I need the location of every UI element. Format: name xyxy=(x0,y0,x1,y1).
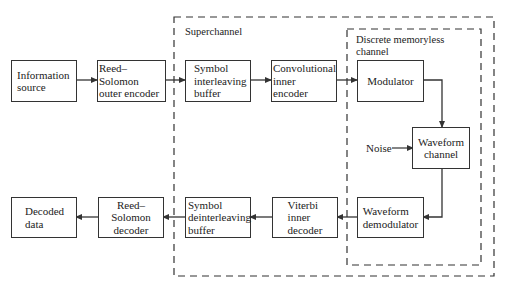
block-symbol-interleaving-buffer: Symbol interleaving buffer xyxy=(185,60,251,102)
block-modulator: Modulator xyxy=(357,60,424,102)
block-waveform-channel-label: Waveform channel xyxy=(418,136,464,161)
block-symbol-deinterleaving-buffer-label: Symbol deinterleaving buffer xyxy=(188,199,251,237)
block-rs-outer-encoder-label: Reed–Solomon outer encoder xyxy=(99,62,165,100)
block-viterbi-inner-decoder: Viterbi inner decoder xyxy=(272,197,338,238)
block-waveform-demodulator: Waveform demodulator xyxy=(357,197,424,238)
block-symbol-interleaving-buffer-label: Symbol interleaving buffer xyxy=(194,62,247,100)
block-information-source-label: Information source xyxy=(17,69,70,94)
noise-label: Noise xyxy=(366,142,392,154)
block-waveform-demodulator-label: Waveform demodulator xyxy=(363,205,419,230)
dmc-label: Discrete memoryless channel xyxy=(356,34,444,58)
block-information-source: Information source xyxy=(11,60,77,102)
arrow-channel-to-demodulator xyxy=(423,168,442,217)
block-waveform-channel: Waveform channel xyxy=(412,127,470,169)
block-decoded-data: Decoded data xyxy=(11,197,77,238)
superchannel-label: Superchannel xyxy=(185,26,242,38)
block-rs-decoder: Reed– Solomon decoder xyxy=(98,197,164,238)
block-rs-outer-encoder: Reed–Solomon outer encoder xyxy=(97,60,166,102)
block-convolutional-inner-encoder-label: Convolutional inner encoder xyxy=(273,62,336,100)
block-modulator-label: Modulator xyxy=(367,75,413,88)
block-symbol-deinterleaving-buffer: Symbol deinterleaving buffer xyxy=(185,197,251,238)
block-viterbi-inner-decoder-label: Viterbi inner decoder xyxy=(288,199,323,237)
block-convolutional-inner-encoder: Convolutional inner encoder xyxy=(271,60,337,102)
block-decoded-data-label: Decoded data xyxy=(25,205,64,230)
arrow-modulator-to-channel xyxy=(423,80,442,127)
block-rs-decoder-label: Reed– Solomon decoder xyxy=(111,199,151,237)
